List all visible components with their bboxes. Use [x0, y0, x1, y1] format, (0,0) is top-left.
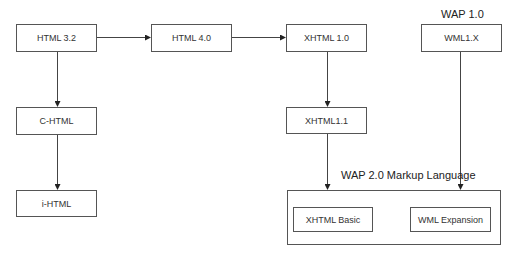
node-label: XHTML1.1	[305, 116, 348, 126]
node-label: XHTML Basic	[306, 215, 361, 225]
group-label-wap-2-0: WAP 2.0 Markup Language	[341, 169, 476, 181]
node-label: i-HTML	[42, 199, 72, 209]
node-xhtml-basic: XHTML Basic	[293, 207, 373, 232]
node-i-html: i-HTML	[16, 190, 97, 217]
node-wml-expansion: WML Expansion	[410, 207, 491, 232]
node-label: XHTML 1.0	[304, 33, 349, 43]
node-wml-1-x: WML1.X	[421, 24, 502, 52]
node-xhtml-1-0: XHTML 1.0	[286, 24, 367, 52]
node-label: HTML 4.0	[172, 33, 211, 43]
node-c-html: C-HTML	[16, 107, 97, 135]
node-label: WML1.X	[444, 33, 479, 43]
node-label: HTML 3.2	[37, 33, 76, 43]
node-html-3-2: HTML 3.2	[16, 24, 97, 52]
node-xhtml-1-1: XHTML1.1	[286, 107, 367, 134]
node-html-4-0: HTML 4.0	[151, 24, 232, 52]
node-label: WML Expansion	[418, 215, 483, 225]
node-label: C-HTML	[40, 116, 74, 126]
group-label-wap-1-0: WAP 1.0	[441, 8, 484, 20]
